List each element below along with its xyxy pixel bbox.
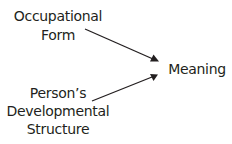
arrows-layer bbox=[0, 0, 232, 144]
arrow-occupational-to-meaning bbox=[85, 29, 159, 62]
arrow-developmental-to-meaning bbox=[92, 74, 158, 101]
